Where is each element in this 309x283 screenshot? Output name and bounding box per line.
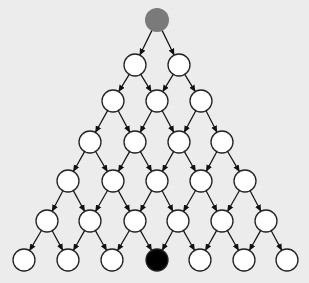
node bbox=[102, 90, 124, 112]
edge-arrow bbox=[140, 111, 151, 132]
node bbox=[233, 249, 255, 271]
node bbox=[13, 249, 35, 271]
edge-arrow bbox=[183, 231, 194, 250]
node bbox=[255, 210, 277, 232]
node bbox=[124, 131, 146, 153]
node bbox=[57, 170, 79, 192]
node bbox=[146, 170, 168, 192]
edge-arrow bbox=[140, 152, 151, 171]
edge-arrow bbox=[206, 231, 217, 250]
edge-arrow bbox=[271, 231, 281, 250]
edge-arrow bbox=[206, 152, 216, 171]
node bbox=[167, 210, 189, 232]
edge-arrow bbox=[227, 231, 238, 250]
node bbox=[190, 170, 212, 192]
node bbox=[124, 54, 146, 76]
edge-arrow bbox=[30, 230, 42, 250]
edge-arrow bbox=[118, 191, 129, 211]
edge-arrow bbox=[73, 191, 84, 211]
node bbox=[211, 131, 233, 153]
edge-arrow bbox=[228, 191, 240, 211]
edge-arrow bbox=[250, 231, 261, 250]
edge-arrow bbox=[185, 74, 195, 91]
edge-arrow bbox=[163, 152, 174, 171]
lattice-diagram bbox=[0, 0, 309, 283]
edge-arrow bbox=[95, 231, 106, 250]
target-node bbox=[146, 249, 168, 271]
edges bbox=[30, 30, 282, 250]
edge-arrow bbox=[74, 231, 85, 250]
edge-arrow bbox=[119, 74, 129, 91]
edge-arrow bbox=[184, 152, 195, 171]
edge-arrow bbox=[96, 191, 108, 211]
edge-arrow bbox=[206, 191, 217, 211]
start-node bbox=[145, 8, 169, 32]
edge-arrow bbox=[96, 111, 108, 132]
node bbox=[79, 131, 101, 153]
node bbox=[101, 249, 123, 271]
nodes bbox=[13, 8, 298, 271]
edge-arrow bbox=[228, 151, 240, 171]
edge-arrow bbox=[162, 231, 172, 250]
edge-arrow bbox=[74, 152, 85, 171]
edge-arrow bbox=[206, 111, 217, 132]
node bbox=[168, 131, 190, 153]
edge-arrow bbox=[250, 191, 261, 211]
node bbox=[79, 210, 101, 232]
edge-arrow bbox=[119, 152, 130, 171]
node bbox=[36, 210, 58, 232]
edge-arrow bbox=[118, 230, 130, 250]
edge-arrow bbox=[140, 30, 152, 55]
edge-arrow bbox=[141, 191, 152, 211]
edge-arrow bbox=[184, 111, 195, 132]
node bbox=[57, 249, 79, 271]
edge-arrow bbox=[162, 30, 174, 55]
edge-arrow bbox=[52, 191, 63, 211]
node bbox=[190, 90, 212, 112]
node bbox=[124, 210, 146, 232]
edge-arrow bbox=[184, 191, 196, 211]
node bbox=[276, 249, 298, 271]
node bbox=[234, 170, 256, 192]
edge-arrow bbox=[140, 231, 151, 250]
node bbox=[146, 90, 168, 112]
edge-arrow bbox=[96, 151, 108, 171]
edge-arrow bbox=[118, 111, 129, 132]
edge-arrow bbox=[162, 111, 173, 132]
edge-arrow bbox=[163, 74, 173, 91]
node bbox=[211, 210, 233, 232]
edge-arrow bbox=[52, 231, 62, 250]
node bbox=[168, 54, 190, 76]
node bbox=[102, 170, 124, 192]
edge-arrow bbox=[162, 191, 173, 211]
node bbox=[189, 249, 211, 271]
edge-arrow bbox=[141, 74, 151, 91]
